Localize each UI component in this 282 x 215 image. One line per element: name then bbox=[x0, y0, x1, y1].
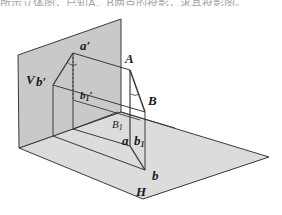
angle-arc-A bbox=[131, 94, 139, 96]
label-b-prime: b′ bbox=[36, 74, 47, 89]
label-b: b bbox=[152, 168, 159, 183]
label-B: B bbox=[147, 93, 157, 108]
label-A: A bbox=[124, 51, 134, 66]
label-H: H bbox=[135, 184, 147, 199]
segment-AB bbox=[130, 70, 145, 112]
label-a: a bbox=[122, 133, 129, 148]
label-a-prime: a′ bbox=[80, 38, 91, 53]
label-V: V bbox=[26, 72, 36, 87]
projection-diagram: V b′ a′ A B b1′ B1 a b1 b H bbox=[0, 0, 282, 215]
